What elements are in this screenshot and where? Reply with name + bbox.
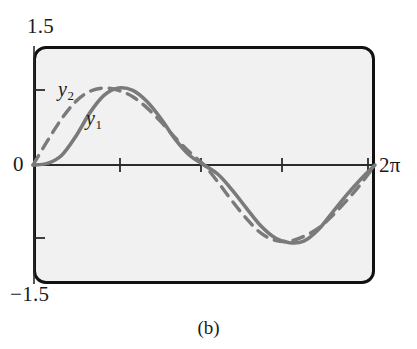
figure-root: 1.5 −1.5 0 2π y2 y1 (b) bbox=[0, 0, 417, 349]
x-axis-max-label: 2π bbox=[379, 155, 401, 176]
y-axis-zero-label: 0 bbox=[13, 154, 24, 175]
curve-label-y1-base: y bbox=[86, 107, 95, 129]
figure-caption: (b) bbox=[0, 318, 417, 337]
y-axis-max-label: 1.5 bbox=[27, 16, 54, 37]
curve-label-y1: y1 bbox=[86, 108, 101, 128]
curve-label-y2-subscript: 2 bbox=[67, 88, 74, 103]
curve-label-y2: y2 bbox=[58, 79, 73, 99]
plot-canvas bbox=[33, 46, 375, 284]
curve-label-y1-subscript: 1 bbox=[95, 117, 102, 132]
curve-label-y2-base: y bbox=[58, 78, 67, 100]
y-axis-min-label: −1.5 bbox=[10, 284, 49, 305]
